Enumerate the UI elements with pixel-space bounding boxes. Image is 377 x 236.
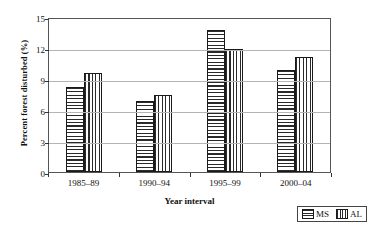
y-axis-title: Percent forest disturbed (%) [19,13,29,173]
x-tick-label: 1990–94 [138,178,170,188]
legend-label-al: AL [350,209,362,219]
y-tick-label: 12 [36,45,45,55]
y-tick-mark [45,143,49,144]
y-tick-label: 6 [41,107,46,117]
bar-ms [277,70,295,172]
x-tick-label: 2000–04 [280,178,312,188]
bar-al [295,57,313,172]
x-tick-mark [119,173,120,177]
bar-al [154,95,172,173]
y-tick-mark [45,112,49,113]
x-tick-label: 1995–99 [209,178,241,188]
y-tick-label: 3 [41,138,46,148]
bar-ms [66,87,84,172]
plot-area: 03691215 [48,18,331,173]
gridline [49,112,330,113]
y-tick-mark [45,19,49,20]
bar-group [277,19,313,172]
x-tick-mark [260,173,261,177]
bar-group [136,19,172,172]
legend-swatch-ms [302,209,314,219]
y-tick-label: 0 [41,169,46,179]
gridline [49,50,330,51]
gridline [49,143,330,144]
x-axis-title: Year interval [48,196,331,206]
x-tick-mark [48,173,49,177]
bar-groups [49,19,330,172]
bar-chart-figure: Percent forest disturbed (%) 03691215 19… [0,0,377,236]
bar-al [84,73,102,172]
x-tick-mark [190,173,191,177]
bar-al [225,49,243,172]
x-tick-mark [331,173,332,177]
legend-item-al: AL [336,209,362,219]
y-tick-mark [45,81,49,82]
x-tick-label: 1985–89 [68,178,100,188]
bar-ms [207,30,225,172]
legend-swatch-al [336,209,348,219]
x-axis-tick-labels: 1985–891990–941995–992000–04 [48,178,331,188]
chart-legend: MS AL [297,206,367,222]
bar-group [207,19,243,172]
legend-item-ms: MS [302,209,329,219]
y-tick-label: 9 [41,76,46,86]
y-tick-label: 15 [36,14,45,24]
bar-group [66,19,102,172]
gridline [49,81,330,82]
legend-label-ms: MS [316,209,329,219]
y-tick-mark [45,50,49,51]
